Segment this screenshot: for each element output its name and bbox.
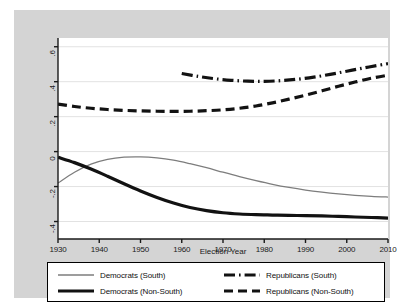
legend-entry[interactable]: Republicans (Non-South) [224,283,354,299]
legend-swatch-solid-thin-gray [58,269,94,281]
graph-region: .6.4.20-.2-.4 19301940195019601970198019… [14,10,390,298]
y-tick-label: .6 [48,45,57,61]
legend-label: Democrats (South) [100,271,165,280]
y-tick-label: .4 [48,80,57,96]
chart-legend: Democrats (South)Republicans (South)Demo… [47,262,385,302]
y-tick-label: .2 [48,115,57,131]
gridlines [58,47,388,222]
series-line-1 [58,157,388,218]
legend-entry[interactable]: Republicans (South) [224,267,337,283]
plot-panel [58,38,388,239]
legend-entry[interactable]: Democrats (South) [58,267,165,283]
legend-label: Democrats (Non-South) [100,287,182,296]
series-lines [58,64,388,218]
legend-entry[interactable]: Democrats (Non-South) [58,283,182,299]
chart-figure: .6.4.20-.2-.4 19301940195019601970198019… [0,0,404,306]
plot-svg [58,38,388,239]
x-axis-title: Election Year [58,247,388,256]
y-tick-label: 0 [48,150,57,166]
legend-swatch-dash-dot-thick-black [224,269,260,281]
legend-swatch-solid-thick-black [58,285,94,297]
legend-swatch-dashed-thick-black [224,285,260,297]
y-tick-label: -.4 [48,220,57,236]
legend-label: Republicans (South) [266,271,337,280]
series-line-2 [182,64,388,82]
legend-label: Republicans (Non-South) [266,287,354,296]
y-tick-label: -.2 [48,185,57,201]
